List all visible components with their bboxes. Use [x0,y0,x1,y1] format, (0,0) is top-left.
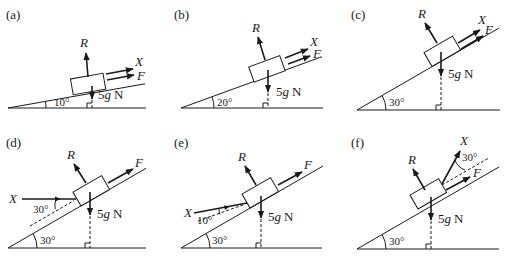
angle-arc [45,101,46,108]
normal-force-arrow [258,37,265,60]
panel-label: (e) [174,135,188,150]
friction-force-arrow [108,169,133,183]
friction-force-label: F [312,46,322,61]
normal-force-label: R [407,152,416,167]
normal-force-arrow [86,53,88,77]
panel-a: (a) 10° R X F 5gN [6,7,146,108]
weight-label: 5gN [97,206,123,221]
friction-force-arrow [446,177,470,190]
friction-force-label: F [472,165,482,180]
panel-label: (b) [174,7,189,22]
right-angle-mark [426,244,431,249]
applied-angle-label: 30° [462,151,477,163]
normal-force-arrow [425,23,437,43]
angle-arc [206,234,210,249]
friction-force-arrow [107,75,134,80]
weight-unit: N [114,87,124,102]
panel-b: (b) 20° R X F 5gN [174,7,323,108]
angle-arc [33,234,37,249]
applied-angle-arc [55,199,56,209]
right-angle-mark [436,105,441,110]
weight-label: 5gN [448,66,474,81]
incline-line [8,168,146,248]
incline-angle-label: 30° [212,234,227,246]
applied-force-label: X [8,191,18,206]
inclined-plane-diagrams: (a) 10° R X F 5gN (b) 20° R X F [0,0,505,258]
friction-force-arrow [288,56,310,64]
block [73,176,110,206]
normal-force-label: R [66,147,75,162]
panel-label: (c) [351,7,365,22]
applied-force-arrow [285,49,308,58]
panel-c: (c) 30° R X F 5gN [351,6,500,110]
normal-force-arrow [74,164,86,183]
normal-force-label: R [417,6,426,21]
incline-angle-label: 20° [217,96,232,108]
right-angle-mark [85,243,90,248]
panel-e: (e) 30° R F X 10° 5gN [174,135,323,248]
applied-angle-label: 30° [33,203,48,215]
incline-angle-label: 10° [54,96,69,108]
normal-force-label: R [79,35,88,50]
applied-force-label: X [134,54,144,69]
applied-force-arrow [442,151,460,184]
block [249,56,285,82]
applied-force-label: X [459,133,469,148]
weight-label: 5gN [438,211,464,226]
right-angle-mark [256,243,261,248]
applied-angle-label: 10° [197,214,212,226]
angle-arc [212,97,214,108]
normal-force-arrow [245,166,256,185]
panel-label: (a) [6,7,20,22]
incline-line [357,28,499,110]
applied-force-line [194,203,247,213]
panel-label: (d) [6,135,21,150]
friction-force-label: F [303,157,313,172]
angle-arc [382,235,386,250]
weight-label: 5gN [98,87,124,102]
applied-force-arrowhead [224,206,230,211]
block [410,179,447,209]
block [424,36,461,66]
normal-force-label: R [251,20,260,35]
weight-g: g [105,87,112,102]
panel-f: (f) 30° R X 30° F 5gN [351,133,499,249]
panel-d: (d) 30° R F X 30° 5gN [6,135,146,248]
applied-force-label: X [183,205,193,220]
friction-force-label: F [134,155,144,170]
friction-force-label: F [484,22,494,37]
panel-label: (f) [351,135,364,150]
angle-arc [382,96,386,111]
applied-force-arrow [106,69,133,74]
right-angle-mark [263,103,268,108]
normal-force-arrow [413,169,425,190]
weight-label: 5gN [276,84,302,99]
normal-force-label: R [237,149,246,164]
friction-force-arrow [461,36,483,49]
friction-force-label: F [136,68,146,83]
incline-angle-label: 30° [389,235,404,247]
incline-angle-label: 30° [389,96,404,108]
incline-angle-label: 30° [40,234,55,246]
right-angle-mark [87,103,92,108]
incline-line [181,57,322,108]
friction-force-arrow [278,172,302,185]
weight-label: 5gN [268,209,294,224]
